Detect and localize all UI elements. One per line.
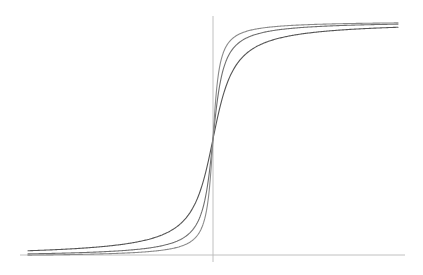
sigmoid-chart bbox=[0, 0, 423, 275]
